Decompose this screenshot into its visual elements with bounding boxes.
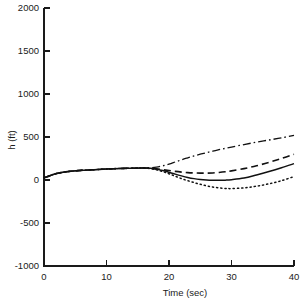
y-axis-ticks: [44, 8, 50, 266]
y-tick-label: 2000: [18, 2, 39, 13]
axis-frame: [44, 8, 294, 266]
x-tick-label: 40: [289, 271, 300, 282]
x-tick-label: 10: [101, 271, 112, 282]
x-axis-title: Time (sec): [163, 287, 208, 298]
y-tick-label: 1500: [18, 45, 39, 56]
y-tick-label: -500: [20, 217, 39, 228]
x-axis-ticks: [44, 260, 294, 266]
y-tick-label: 0: [34, 174, 39, 185]
y-tick-label: 500: [23, 131, 39, 142]
y-tick-label: 1000: [18, 88, 39, 99]
y-tick-label: -1000: [15, 260, 39, 271]
x-axis-tick-labels: 010203040: [41, 271, 299, 282]
axis-group: -1000-5000500100015002000 010203040: [15, 2, 300, 282]
y-axis-title: h (ft): [6, 130, 17, 150]
x-tick-label: 20: [164, 271, 175, 282]
line-chart: -1000-5000500100015002000 010203040 h (f…: [0, 0, 307, 308]
data-series-group: [44, 135, 294, 188]
chart-container: -1000-5000500100015002000 010203040 h (f…: [0, 0, 307, 308]
y-axis-tick-labels: -1000-5000500100015002000: [15, 2, 39, 271]
x-tick-label: 0: [41, 271, 46, 282]
x-tick-label: 30: [226, 271, 237, 282]
series-line-dash-dot: [44, 135, 294, 178]
